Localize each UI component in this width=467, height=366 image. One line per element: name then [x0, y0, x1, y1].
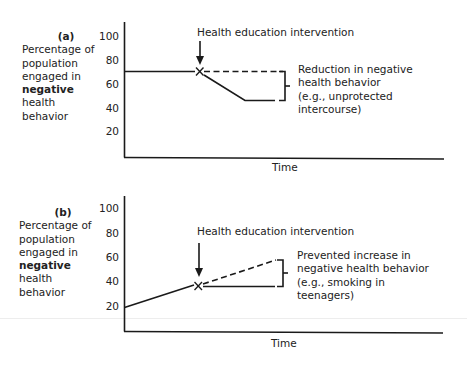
x-axis-a: [124, 158, 444, 160]
bracket-b: [277, 260, 283, 287]
arrow-a-head: [196, 56, 204, 65]
chart-graphics: [0, 0, 467, 366]
x-marker-b: [195, 282, 203, 290]
arrow-b-head: [195, 268, 203, 277]
x-marker-a: [196, 68, 204, 76]
x-axis-b: [124, 332, 443, 334]
bracket-a: [279, 72, 285, 101]
series-a-with-intervention: [204, 75, 275, 101]
series-b-before: [125, 285, 195, 308]
series-b-projected: [203, 260, 276, 284]
